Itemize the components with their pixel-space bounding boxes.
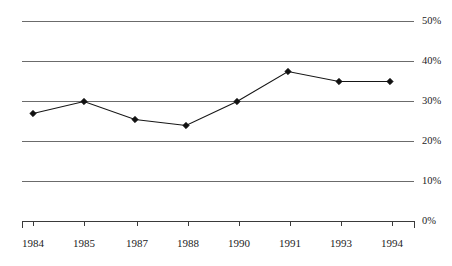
x-axis-label-1985: 1985	[73, 237, 96, 249]
x-axis-label-1988: 1988	[177, 237, 200, 249]
x-axis-label-1990: 1990	[228, 237, 251, 249]
x-axis-label-1993: 1993	[330, 237, 353, 249]
chart-background	[0, 0, 452, 266]
x-axis-label-1987: 1987	[126, 237, 149, 249]
x-axis-label-1984: 1984	[22, 237, 45, 249]
line-chart-figure: 50% 40% 30% 20% 10% 0% 1984 1985 1987 19…	[0, 0, 452, 266]
y-axis-label-20: 20%	[422, 135, 442, 146]
chart-canvas: 50% 40% 30% 20% 10% 0% 1984 1985 1987 19…	[0, 0, 452, 266]
y-axis-label-0: 0%	[422, 215, 436, 226]
x-axis-label-1994: 1994	[381, 237, 404, 249]
y-axis-label-10: 10%	[422, 175, 442, 186]
y-axis-label-30: 30%	[422, 95, 442, 106]
y-axis-label-40: 40%	[422, 55, 442, 66]
y-axis-label-50: 50%	[422, 15, 442, 26]
x-axis-label-1991: 1991	[279, 237, 301, 249]
